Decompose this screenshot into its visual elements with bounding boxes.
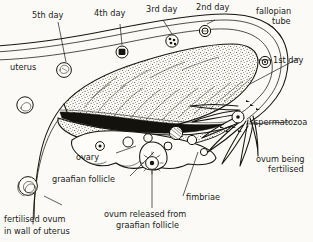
label-2nd-day: 2nd day <box>196 2 229 12</box>
cell-day3 <box>166 35 178 47</box>
label-5th-day: 5th day <box>32 10 63 20</box>
follicle <box>187 135 196 144</box>
cell-day1 <box>259 56 270 67</box>
label-spermatozoa: spermatozoa <box>254 117 307 127</box>
cell-blastocyst-mid <box>17 97 33 113</box>
label-ovum-being-fertilised-1: ovum being <box>256 154 305 164</box>
follicle <box>200 148 207 155</box>
label-ovary: ovary <box>76 152 99 162</box>
follicle <box>164 142 172 150</box>
diagram-svg: 5th day 4th day 3rd day 2nd day fallopia… <box>0 0 313 242</box>
label-ovum-released-2: graafian follicle <box>116 220 179 230</box>
label-graafian-follicle: graafian follicle <box>52 174 115 184</box>
follicle <box>123 137 133 147</box>
label-fallopian-tube-1: fallopian <box>256 6 291 16</box>
cell-day4 <box>116 46 128 58</box>
label-ovum-being-fertilised-2: fertilised <box>268 164 304 174</box>
label-1st-day: 1st day <box>273 55 304 65</box>
label-4th-day: 4th day <box>94 8 125 18</box>
cell-day2 <box>199 25 210 36</box>
label-fertilised-ovum-2: in wall of uterus <box>4 226 70 236</box>
cell-day5 <box>57 63 72 78</box>
diagram-canvas: 5th day 4th day 3rd day 2nd day fallopia… <box>0 0 313 242</box>
label-fallopian-tube-2: tube <box>272 16 291 26</box>
label-ovum-released-1: ovum released from <box>104 209 186 219</box>
follicle <box>144 134 152 142</box>
maturing-follicle <box>169 126 182 139</box>
label-3rd-day: 3rd day <box>146 4 177 14</box>
cell-ovum-being-fertilised <box>232 111 244 123</box>
label-fertilised-ovum-1: fertilised ovum <box>4 214 65 224</box>
label-uterus: uterus <box>10 62 36 72</box>
label-fimbriae: fimbriae <box>186 192 220 202</box>
